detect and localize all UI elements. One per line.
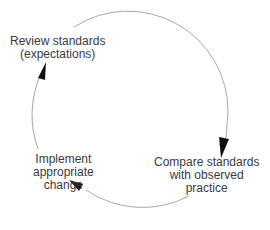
node-compare: Compare standards with observed practice	[154, 156, 259, 195]
node-review-line-2: (expectations)	[10, 48, 105, 61]
arrowhead-to-review-icon	[38, 62, 46, 80]
arc-implement-to-review	[32, 76, 40, 149]
node-implement-line-3: change	[33, 179, 94, 192]
arc-review-to-compare	[74, 11, 228, 138]
node-implement: Implement appropriate change	[33, 153, 94, 192]
node-compare-line-3: practice	[154, 182, 259, 195]
node-review: Review standards (expectations)	[10, 35, 105, 61]
